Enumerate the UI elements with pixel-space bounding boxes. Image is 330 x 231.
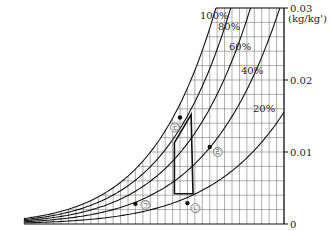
- state-point-dot: [178, 115, 182, 119]
- state-point-dot: [208, 145, 212, 149]
- x-tick-label: −20: [13, 230, 34, 231]
- state-point-label: ㉢: [172, 124, 179, 132]
- rh-label: 20%: [253, 103, 275, 114]
- x-tick-label: 20: [166, 230, 179, 231]
- psychrometric-chart: 100%80%60%40%20% −20−100102030405000.010…: [0, 0, 330, 231]
- y-tick-label: 0.02: [290, 75, 312, 86]
- state-point-label: ㉡: [192, 205, 199, 213]
- tick-labels: −20−100102030405000.010.020.03(℃)(kg/kg'…: [13, 3, 326, 231]
- x-tick-label: 30: [203, 230, 216, 231]
- y-axis-label: (kg/kg'): [288, 13, 327, 24]
- rh-label: 60%: [229, 41, 251, 52]
- rh-label: 80%: [218, 21, 240, 32]
- y-tick-label: 0.01: [290, 147, 312, 158]
- rh-curve-20pct: [24, 112, 284, 223]
- x-tick-label: 50: [278, 230, 291, 231]
- state-point-dot: [133, 202, 137, 206]
- x-tick-label: 40: [240, 230, 253, 231]
- x-tick-label: 0: [95, 230, 101, 231]
- state-point-dot: [185, 201, 189, 205]
- rh-curves: 100%80%60%40%20%: [24, 8, 284, 223]
- state-point-label: ㉠: [142, 201, 149, 209]
- x-tick-label: −10: [51, 230, 72, 231]
- rh-curve-60pct: [24, 8, 251, 221]
- rh-label: 100%: [200, 10, 229, 21]
- y-tick-label: 0: [290, 219, 296, 230]
- x-tick-label: 10: [129, 230, 142, 231]
- state-point-label: ㉣: [214, 148, 221, 156]
- rh-curve-80pct: [24, 8, 231, 220]
- rh-label: 40%: [241, 65, 263, 76]
- state-points: ㉠㉡㉢㉣: [133, 115, 222, 212]
